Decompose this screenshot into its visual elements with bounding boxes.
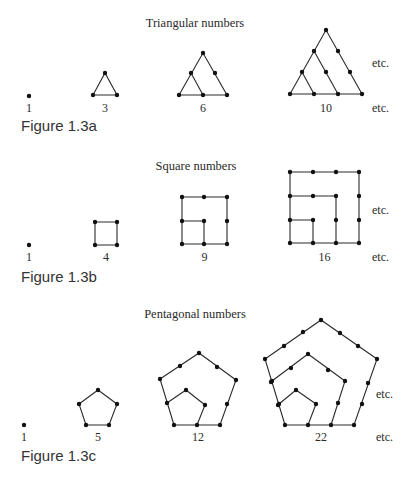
figure-title: Square numbers — [156, 159, 237, 173]
dot — [115, 93, 119, 97]
dot — [225, 242, 229, 246]
edge-line — [290, 172, 359, 243]
number-label: 10 — [320, 101, 332, 115]
etc-label: etc. — [376, 430, 393, 444]
dot — [288, 170, 292, 174]
edge-line — [290, 30, 362, 94]
figurate-shape-16: 16 — [288, 170, 361, 264]
dot — [311, 170, 315, 174]
number-label: 22 — [315, 430, 327, 444]
number-label: 4 — [103, 250, 109, 264]
dot — [357, 241, 361, 245]
dot — [93, 220, 97, 224]
number-label: 1 — [21, 430, 27, 444]
dot — [338, 331, 342, 335]
dot — [336, 401, 340, 405]
dot — [77, 402, 81, 406]
dot — [22, 423, 26, 427]
figure-caption: Figure 1.3a — [21, 117, 98, 134]
dot — [202, 242, 206, 246]
edge-line — [160, 353, 236, 425]
dot — [107, 423, 111, 427]
dot — [27, 94, 31, 98]
number-label: 3 — [102, 101, 108, 115]
figurate-shape-4: 4 — [93, 220, 119, 264]
dot — [348, 70, 352, 74]
dot — [213, 71, 217, 75]
dot — [360, 402, 364, 406]
figurate-shape-1: 1 — [21, 423, 27, 444]
dot — [329, 423, 333, 427]
dot — [158, 377, 162, 381]
figure-1-3a-triangular: Triangular numbers etc. etc. Figure 1.3a… — [21, 16, 389, 134]
dot — [357, 170, 361, 174]
edge-line — [265, 320, 377, 425]
edge-line — [290, 220, 313, 243]
etc-label: etc. — [372, 203, 389, 217]
etc-label: etc. — [372, 101, 389, 115]
dot — [334, 218, 338, 222]
dot — [375, 357, 379, 361]
figurate-shape-1: 1 — [26, 94, 32, 115]
dot — [215, 365, 219, 369]
dot — [96, 388, 100, 392]
dot — [93, 243, 97, 247]
edge-line — [182, 221, 204, 244]
number-label: 6 — [200, 101, 206, 115]
dot — [270, 379, 274, 383]
dot — [300, 70, 304, 74]
dot — [294, 388, 298, 392]
dot — [289, 366, 293, 370]
dot — [203, 403, 207, 407]
figurate-shape-22: 22 — [263, 318, 379, 444]
figurate-shape-1: 1 — [26, 243, 32, 264]
dot — [180, 219, 184, 223]
figure-1-3c-pentagonal: Pentagonal numbers etc. etc. Figure 1.3c… — [21, 307, 393, 464]
etc-label: etc. — [372, 56, 389, 70]
dot — [189, 71, 193, 75]
dot — [360, 92, 364, 96]
dot — [225, 93, 229, 97]
figurate-shape-10: 10 — [288, 28, 364, 115]
dot — [218, 423, 222, 427]
dot — [288, 241, 292, 245]
number-label: 1 — [26, 250, 32, 264]
dot — [306, 423, 310, 427]
dot — [288, 194, 292, 198]
dot — [311, 241, 315, 245]
edge-line — [179, 53, 227, 95]
figurate-shape-5: 5 — [77, 388, 119, 444]
figure-caption: Figure 1.3c — [21, 447, 97, 464]
dot — [311, 194, 315, 198]
dot — [334, 194, 338, 198]
dot — [84, 423, 88, 427]
edge-line — [302, 72, 314, 94]
dot — [234, 378, 238, 382]
dot — [115, 243, 119, 247]
edge-line — [279, 390, 316, 425]
dot — [334, 170, 338, 174]
dot — [197, 351, 201, 355]
dot — [202, 195, 206, 199]
dot — [91, 93, 95, 97]
number-label: 1 — [26, 101, 32, 115]
dot — [352, 423, 356, 427]
dot — [326, 368, 330, 372]
dot — [312, 92, 316, 96]
dot — [177, 93, 181, 97]
edge-line — [272, 354, 345, 425]
dot — [27, 243, 31, 247]
edge-line — [95, 222, 117, 245]
dot — [314, 402, 318, 406]
dot — [319, 318, 323, 322]
number-label: 9 — [202, 250, 208, 264]
figure-caption: Figure 1.3b — [21, 268, 97, 285]
figurate-shape-9: 9 — [180, 195, 229, 264]
dot — [282, 344, 286, 348]
dot — [311, 218, 315, 222]
dot — [283, 423, 287, 427]
dot — [115, 402, 119, 406]
figurate-numbers-diagram: Triangular numbers etc. etc. Figure 1.3a… — [0, 0, 412, 483]
figurate-shape-6: 6 — [177, 51, 229, 115]
dot — [366, 381, 370, 385]
